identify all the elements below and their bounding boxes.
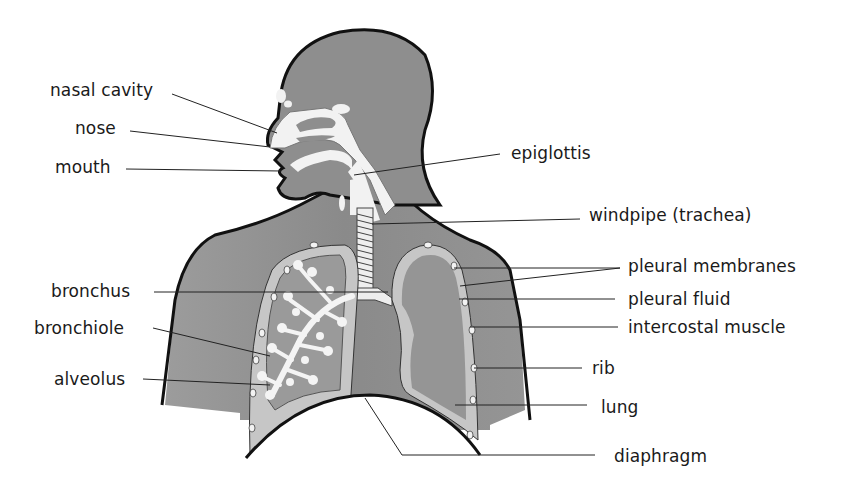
label-rib: rib (592, 358, 615, 378)
label-bronchiole: bronchiole (34, 318, 124, 338)
label-lung: lung (601, 397, 638, 417)
label-nose: nose (75, 118, 116, 138)
label-diaphragm: diaphragm (614, 446, 707, 466)
label-pleural-membranes: pleural membranes (628, 256, 796, 276)
label-epiglottis: epiglottis (511, 143, 591, 163)
label-bronchus: bronchus (51, 281, 130, 301)
anatomy-illustration (0, 0, 859, 490)
label-mouth: mouth (55, 157, 111, 177)
label-alveolus: alveolus (54, 369, 125, 389)
label-pleural-fluid: pleural fluid (628, 289, 731, 309)
label-windpipe: windpipe (trachea) (589, 205, 752, 225)
respiratory-system-diagram: nasal cavity nose mouth bronchus bronchi… (0, 0, 859, 490)
label-intercostal-muscle: intercostal muscle (628, 317, 786, 337)
label-nasal-cavity: nasal cavity (50, 80, 153, 100)
